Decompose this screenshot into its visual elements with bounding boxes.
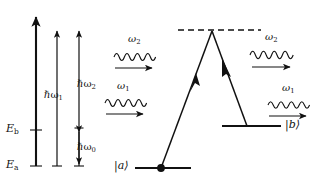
state-a-ket-label: |a⟩	[114, 160, 129, 171]
omega-2-right-label: ω2	[265, 32, 277, 44]
transition-leg-emission	[212, 31, 247, 126]
photon-wave-omega-1-right	[268, 102, 310, 116]
state-a-population-dot	[157, 164, 165, 172]
transition-leg-absorption	[161, 31, 212, 168]
energy-level-diagram: Eb Ea ℏω1 ℏω2 ℏω0 ω2 ω1 ω2 ω1 |a⟩ |b⟩	[0, 0, 333, 190]
omega-2-left-label: ω2	[128, 34, 140, 46]
omega-1-right-label: ω1	[282, 83, 294, 95]
energy-level-label-Eb: Eb	[6, 123, 19, 136]
state-b-ket-label: |b⟩	[285, 119, 300, 130]
hbar-omega-0-label: ℏω0	[77, 142, 96, 154]
energy-arrow-thick	[30, 17, 42, 166]
energy-level-label-Ea: Ea	[6, 159, 18, 172]
photon-wave-omega-1-left	[105, 100, 147, 115]
photon-wave-omega-2-left	[114, 54, 156, 69]
hbar-omega-2-label: ℏω2	[77, 79, 96, 91]
hbar-omega-1-label: ℏω1	[44, 90, 63, 102]
omega-1-left-label: ω1	[117, 81, 129, 93]
photon-wave-omega-2-right	[250, 51, 293, 67]
